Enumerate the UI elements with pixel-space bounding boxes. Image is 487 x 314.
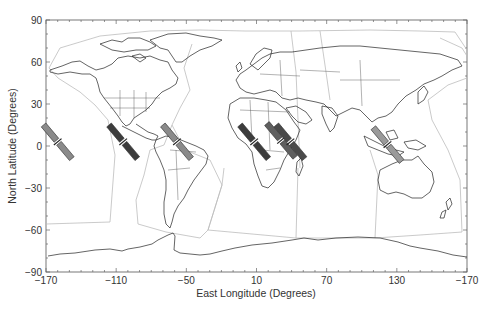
- x-tick-label: −50: [178, 275, 195, 286]
- country-borders: [104, 60, 400, 200]
- x-tick-labels: −170−110−501070130−170: [35, 275, 479, 286]
- x-tick-label: −170: [35, 275, 58, 286]
- x-tick-label: −170: [456, 275, 479, 286]
- satellite-footprint: [105, 122, 141, 162]
- british-isles-coastline: [236, 62, 242, 72]
- x-tick-label: 10: [251, 275, 263, 286]
- y-axis-title: North Latitude (Degrees): [6, 88, 18, 204]
- central-america-coastline: [122, 124, 158, 140]
- greenland-coastline: [150, 33, 222, 62]
- japan-coastline: [418, 86, 428, 104]
- y-tick-label: 30: [31, 99, 43, 110]
- arctic-islands-coastline: [100, 38, 156, 62]
- north-america-coastline: [50, 56, 178, 126]
- x-tick-label: −110: [105, 275, 127, 286]
- satellite-footprint: [159, 122, 195, 162]
- y-tick-label: −60: [25, 225, 42, 236]
- new-zealand-coastline: [440, 198, 452, 218]
- y-tick-labels: 9060300−30−60−90: [25, 15, 42, 278]
- antarctica-coastline: [48, 233, 467, 257]
- world-map-figure: 9060300−30−60−90 −170−110−501070130−170 …: [0, 0, 487, 314]
- x-axis-title: East Longitude (Degrees): [196, 287, 316, 299]
- y-tick-label: 60: [31, 57, 43, 68]
- x-tick-label: 70: [321, 275, 333, 286]
- satellite-footprint: [370, 125, 406, 165]
- australia-coastline: [378, 156, 434, 198]
- satellite-footprint: [40, 122, 76, 162]
- y-tick-label: 0: [36, 141, 42, 152]
- satellite-footprints: [40, 120, 406, 164]
- y-tick-label: 90: [31, 15, 43, 26]
- x-tick-label: 130: [388, 275, 405, 286]
- region-boundaries: [46, 30, 467, 238]
- y-tick-label: −30: [25, 183, 42, 194]
